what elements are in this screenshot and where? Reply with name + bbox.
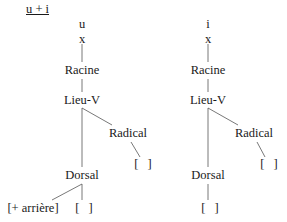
radical-value: [ ] <box>260 157 277 171</box>
branch-radical-value-2 <box>257 142 265 157</box>
root-node: Racine <box>65 63 100 77</box>
segment-label: i <box>206 17 209 31</box>
segment-label: u <box>79 17 85 31</box>
place-node: Lieu-V <box>190 93 226 107</box>
timing-slot: x <box>79 32 85 46</box>
place-node: Lieu-V <box>64 93 100 107</box>
dorsal-empty-feature: [ ] <box>75 201 92 215</box>
branch-lieu-radical-1 <box>82 108 112 125</box>
root-node: Racine <box>191 63 226 77</box>
dorsal-node: Dorsal <box>191 168 224 182</box>
branch-dorsal-feature-1 <box>52 184 82 200</box>
branch-radical-value-1 <box>131 142 140 157</box>
dorsal-node: Dorsal <box>65 168 98 182</box>
radical-value: [ ] <box>134 157 151 171</box>
dorsal-empty-feature: [ ] <box>201 201 218 215</box>
radical-node: Radical <box>235 126 273 140</box>
tree-branches <box>0 0 287 222</box>
radical-node: Radical <box>109 126 147 140</box>
branch-lieu-radical-2 <box>208 108 238 125</box>
dorsal-feature: [+ arrière] <box>7 201 58 215</box>
timing-slot: x <box>205 32 211 46</box>
